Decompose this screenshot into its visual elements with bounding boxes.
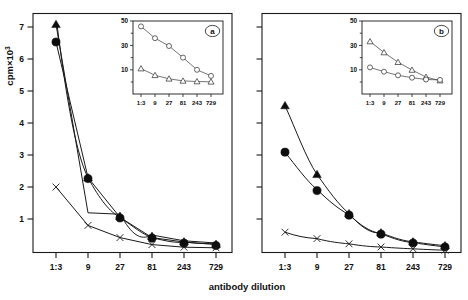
inset-b-ytick-10: 10 <box>350 66 358 73</box>
panel-b-xtick-0: 1:3 <box>279 262 292 272</box>
panel-letter-b-text: b <box>439 27 444 36</box>
panel-b: 1:3 9 27 81 243 729 <box>257 14 462 273</box>
inset-b-xtick-3: 81 <box>409 100 416 106</box>
inset-b-ytick-50: 50 <box>350 17 358 24</box>
inset-a-xaxis: 1:3 9 27 81 243 729 <box>137 94 217 106</box>
panel-a-frame <box>33 14 232 253</box>
panel-a-ytick-7: 7 <box>19 22 24 32</box>
inset-a-xtick-5: 729 <box>206 100 217 106</box>
inset-a-ytick-30: 30 <box>121 42 129 49</box>
panel-a: 7 6 5 4 3 2 1 cpm×103 1:3 9 27 81 243 72… <box>4 14 233 273</box>
panel-a-xtick-0: 1:3 <box>50 262 63 272</box>
panel-a-curve-overlay <box>57 24 216 243</box>
panel-b-xtick-5: 729 <box>438 262 452 272</box>
panel-b-series-triangle <box>285 106 445 246</box>
inset-a-series-circle <box>141 26 211 76</box>
inset-a-xtick-4: 243 <box>192 100 203 106</box>
panel-b-xtick-3: 81 <box>376 262 386 272</box>
panel-b-xtick-2: 27 <box>344 262 354 272</box>
panel-letter-a-text: a <box>210 27 215 36</box>
panel-letter-a: a <box>205 25 219 36</box>
svg-text:cpm×103: cpm×103 <box>4 46 16 86</box>
panel-a-ytick-1: 1 <box>19 214 24 224</box>
panel-a-series-circle <box>56 42 216 245</box>
inset-a-xtick-1: 9 <box>153 100 157 106</box>
panel-b-series-cross <box>285 232 445 250</box>
panel-a-xtick-2: 27 <box>115 262 125 272</box>
inset-a-yaxis: 50 30 10 <box>121 17 133 82</box>
panel-a-xtick-5: 729 <box>209 262 223 272</box>
panel-b-series-circle <box>285 152 445 247</box>
inset-b-xtick-1: 9 <box>382 100 386 106</box>
inset-a-xtick-0: 1:3 <box>137 100 146 106</box>
panel-b-frame <box>262 14 461 253</box>
inset-a-xtick-2: 27 <box>166 100 173 106</box>
panel-a-series-cross <box>56 187 216 248</box>
inset-a-circle-markers <box>139 24 214 79</box>
panel-a-xtick-3: 81 <box>147 262 157 272</box>
inset-b-ytick-30: 30 <box>350 42 358 49</box>
panel-a-series-triangle <box>56 24 216 243</box>
inset-a-xtick-3: 81 <box>180 100 187 106</box>
inset-a: 50 30 10 1:3 9 27 81 243 729 <box>121 17 223 106</box>
panel-letter-b: b <box>434 25 448 36</box>
panel-a-ytick-5: 5 <box>19 86 24 96</box>
panel-a-ytick-4: 4 <box>19 118 24 128</box>
inset-b: 50 30 10 1:3 9 27 81 243 729 <box>350 17 452 106</box>
inset-b-xaxis: 1:3 9 27 81 243 729 <box>366 94 446 106</box>
y-axis-title-base: cpm×10 <box>4 50 15 86</box>
inset-b-xtick-2: 27 <box>395 100 402 106</box>
panel-b-xtick-4: 243 <box>406 262 420 272</box>
y-axis-title: cpm×103 <box>4 46 16 86</box>
panel-a-ytick-2: 2 <box>19 182 24 192</box>
y-axis-title-exponent: 3 <box>4 46 11 50</box>
panel-a-xtick-4: 243 <box>177 262 191 272</box>
panel-a-ytick-6: 6 <box>19 54 24 64</box>
panel-a-yaxis: 7 6 5 4 3 2 1 <box>19 22 33 224</box>
inset-b-yaxis: 50 30 10 <box>350 17 362 82</box>
panel-b-xaxis: 1:3 9 27 81 243 729 <box>279 253 453 273</box>
panel-b-xtick-1: 9 <box>315 262 320 272</box>
x-axis-title: antibody dilution <box>209 281 286 292</box>
panel-a-xaxis: 1:3 9 27 81 243 729 <box>50 253 224 273</box>
panel-b-yaxis <box>257 27 263 219</box>
inset-b-xtick-4: 243 <box>421 100 432 106</box>
inset-b-series-triangle <box>370 42 440 81</box>
inset-a-series-triangle <box>141 69 211 82</box>
inset-a-ytick-50: 50 <box>121 17 129 24</box>
inset-b-xtick-5: 729 <box>435 100 446 106</box>
panel-a-markers <box>52 20 221 251</box>
figure-canvas: 7 6 5 4 3 2 1 cpm×103 1:3 9 27 81 243 72… <box>0 0 468 300</box>
panel-a-xtick-1: 9 <box>86 262 91 272</box>
panel-a-ytick-3: 3 <box>19 150 24 160</box>
inset-a-ytick-10: 10 <box>121 66 129 73</box>
inset-b-xtick-0: 1:3 <box>366 100 375 106</box>
